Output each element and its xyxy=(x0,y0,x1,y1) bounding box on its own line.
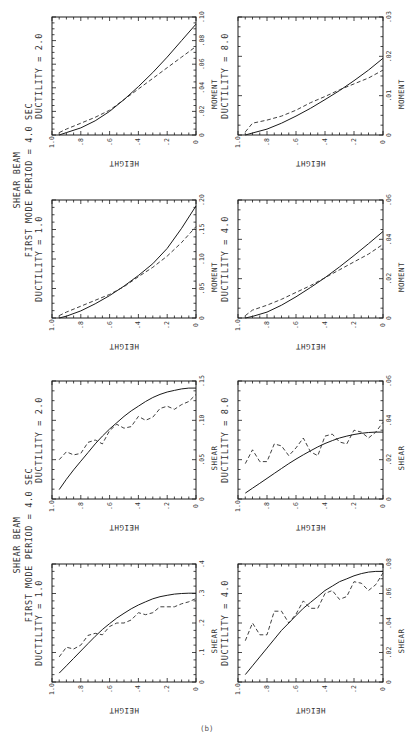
x-tick-label: .2 xyxy=(163,502,171,510)
x-tick-label: .8 xyxy=(263,138,271,146)
y-axis-title: MOMENT xyxy=(210,262,219,292)
y-tick-label: 0 xyxy=(198,497,206,501)
x-tick-label: .4 xyxy=(134,685,142,693)
panel-title: DUCTILITY = 1.0 xyxy=(34,580,44,666)
x-tick-label: 0 xyxy=(192,140,200,144)
plot-frame xyxy=(238,381,383,499)
y-tick-label: .05 xyxy=(198,283,206,295)
x-tick-label: .8 xyxy=(77,138,85,146)
x-tick-label: .2 xyxy=(350,138,358,146)
series-solid xyxy=(59,206,196,318)
y-tick-label: .10 xyxy=(198,414,206,426)
x-tick-label: 0 xyxy=(379,323,387,327)
x-tick-label: .2 xyxy=(163,685,171,693)
x-tick-label: 1.0 xyxy=(234,683,242,695)
page-label: (b) xyxy=(200,724,214,733)
y-tick-label: .1 xyxy=(198,649,206,657)
x-tick-label: .6 xyxy=(106,321,114,329)
series-solid xyxy=(59,388,196,490)
x-tick-label: .4 xyxy=(134,138,142,146)
x-tick-label: 1.0 xyxy=(234,319,242,331)
group-title-moment: SHEAR BEAM FIRST MODE PERIOD = 4.0 SEC xyxy=(12,103,34,257)
y-tick-label: .08 xyxy=(385,558,393,570)
series-solid xyxy=(245,571,383,674)
y-tick-label: 0 xyxy=(385,497,393,501)
x-tick-label: .4 xyxy=(134,502,142,510)
y-tick-label: .15 xyxy=(198,224,206,236)
plot-frame xyxy=(238,564,383,682)
y-tick-label: .03 xyxy=(385,11,393,23)
y-tick-label: .04 xyxy=(385,414,393,426)
x-tick-label: .6 xyxy=(292,685,300,693)
y-tick-label: 0 xyxy=(198,680,206,684)
y-axis-title: SHEAR xyxy=(397,628,406,653)
x-tick-label: .6 xyxy=(292,138,300,146)
x-axis-title: HEIGHT xyxy=(295,706,325,715)
y-tick-label: .01 xyxy=(385,90,393,102)
x-axis-title: HEIGHT xyxy=(109,342,139,351)
y-tick-label: 0 xyxy=(385,133,393,137)
y-tick-label: .06 xyxy=(198,58,206,70)
y-tick-label: .02 xyxy=(385,454,393,466)
x-tick-label: .2 xyxy=(163,138,171,146)
series-dashed xyxy=(59,394,196,459)
plot-frame xyxy=(52,200,196,318)
x-axis-title: HEIGHT xyxy=(295,523,325,532)
y-tick-label: 0 xyxy=(385,680,393,684)
y-axis-title: SHEAR xyxy=(397,445,406,470)
y-tick-label: .2 xyxy=(198,619,206,627)
x-tick-label: .8 xyxy=(77,321,85,329)
x-axis-title: HEIGHT xyxy=(109,159,139,168)
series-dashed xyxy=(245,244,383,315)
x-axis-title: HEIGHT xyxy=(295,342,325,351)
x-tick-label: 0 xyxy=(379,504,387,508)
y-tick-label: .3 xyxy=(198,590,206,598)
x-tick-label: 1.0 xyxy=(234,136,242,148)
series-dashed xyxy=(245,422,383,463)
chart-panel-moment-d2: 1.0.8.6.4.200.02.04.06.08.10HEIGHTMOMENT… xyxy=(34,11,219,168)
x-axis-title: HEIGHT xyxy=(295,159,325,168)
x-tick-label: .2 xyxy=(350,502,358,510)
plot-frame xyxy=(52,17,196,135)
y-tick-label: .04 xyxy=(198,82,206,94)
x-tick-label: 1.0 xyxy=(234,500,242,512)
x-tick-label: 1.0 xyxy=(48,683,56,695)
y-tick-label: .06 xyxy=(385,588,393,600)
group-title-line2: FIRST MODE PERIOD = 4.0 SEC xyxy=(24,468,34,622)
panel-title: DUCTILITY = 1.0 xyxy=(34,216,44,302)
x-tick-label: .8 xyxy=(77,502,85,510)
y-tick-label: .08 xyxy=(198,35,206,47)
x-tick-label: 1.0 xyxy=(48,500,56,512)
y-tick-label: .20 xyxy=(198,194,206,206)
y-axis-title: MOMENT xyxy=(397,79,406,109)
y-axis-title: MOMENT xyxy=(397,262,406,292)
series-solid xyxy=(245,232,383,319)
y-tick-label: .05 xyxy=(198,454,206,466)
chart-panel-shear-d4: 1.0.8.6.4.200.02.04.06.08HEIGHTSHEARDUCT… xyxy=(220,558,406,715)
y-tick-label: 0 xyxy=(198,316,206,320)
group-title-shear: SHEAR BEAM FIRST MODE PERIOD = 4.0 SEC xyxy=(12,468,34,622)
panel-title: DUCTILITY = 4.0 xyxy=(220,216,230,302)
series-dashed xyxy=(59,599,196,657)
x-tick-label: .8 xyxy=(263,321,271,329)
chart-panel-moment-d1: 1.0.8.6.4.200.05.10.15.20HEIGHTMOMENTDUC… xyxy=(34,194,219,351)
y-tick-label: .4 xyxy=(198,560,206,568)
chart-panel-shear-d8: 1.0.8.6.4.200.02.04.06HEIGHTSHEARDUCTILI… xyxy=(220,375,406,532)
x-tick-label: .6 xyxy=(106,138,114,146)
y-tick-label: .10 xyxy=(198,253,206,265)
x-tick-label: .6 xyxy=(292,321,300,329)
plot-frame xyxy=(52,381,196,499)
y-tick-label: .06 xyxy=(385,194,393,206)
y-axis-title: SHEAR xyxy=(210,445,219,470)
x-tick-label: .2 xyxy=(350,685,358,693)
x-tick-label: 1.0 xyxy=(48,136,56,148)
group-title-line2: FIRST MODE PERIOD = 4.0 SEC xyxy=(24,103,34,257)
x-tick-label: .8 xyxy=(263,502,271,510)
y-tick-label: .02 xyxy=(198,105,206,117)
plot-frame xyxy=(238,200,383,318)
group-title-line1: SHEAR BEAM xyxy=(12,516,22,573)
x-tick-label: 0 xyxy=(192,323,200,327)
x-tick-label: 0 xyxy=(192,687,200,691)
figure: SHEAR BEAM FIRST MODE PERIOD = 4.0 SEC S… xyxy=(0,0,418,735)
x-tick-label: 0 xyxy=(192,504,200,508)
